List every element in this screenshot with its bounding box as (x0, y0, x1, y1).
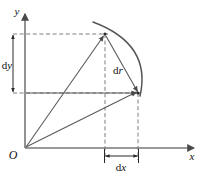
trajectory-arc (93, 22, 142, 96)
dx-label-var: x (120, 161, 126, 173)
figure-container: y x O dy dx dr (0, 0, 210, 185)
x-axis-label: x (189, 150, 195, 162)
dashed-guides-group (13, 34, 141, 160)
vectors-group (26, 36, 138, 147)
axes-group (25, 14, 194, 148)
dx-label: dx (116, 161, 127, 173)
geometry-diagram-svg: y x O dy dx dr (0, 0, 210, 185)
dr-label: dr (113, 64, 124, 76)
dr-label-var: r (119, 64, 124, 76)
dy-label: dy (2, 59, 13, 71)
point-lower-right-marker (136, 91, 139, 94)
r-vector-lower (26, 92, 137, 147)
r-vector-upper (26, 36, 104, 147)
origin-label: O (9, 148, 18, 162)
y-axis-label: y (14, 5, 20, 17)
dy-label-var: y (6, 59, 12, 71)
point-upper-marker (103, 32, 106, 35)
